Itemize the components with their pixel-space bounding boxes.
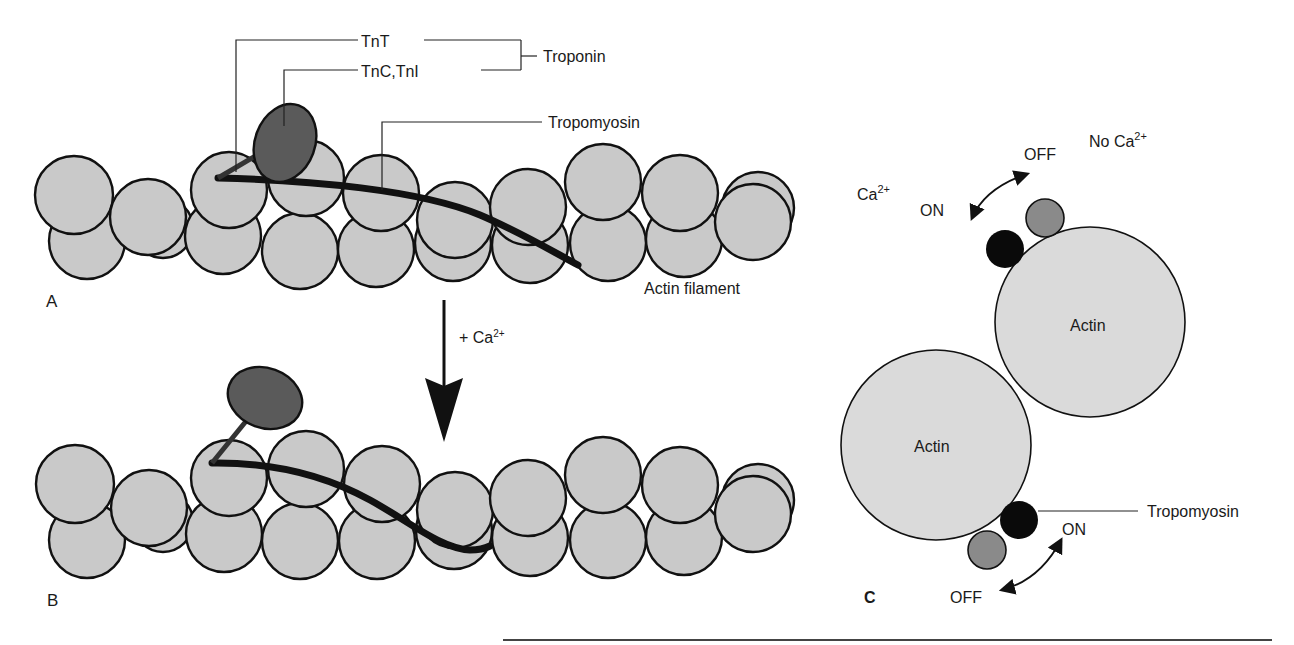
tropomyosin-on-position-upper [986, 230, 1024, 268]
panel-a-actin-filament [35, 140, 794, 289]
tropomyosin-label-c: Tropomyosin [1147, 503, 1239, 520]
panel-c-label: C [864, 589, 876, 606]
panel-c-cross-section [841, 199, 1185, 569]
on-off-switch-arrow-upper [972, 174, 1027, 218]
calcium-present-label: Ca2+ [857, 183, 890, 203]
tnc-tni-label: TnC,TnI [361, 63, 419, 80]
troponin-label: Troponin [543, 48, 606, 65]
panel-a-label: A [46, 292, 58, 311]
plus-calcium-label: + Ca2+ [459, 328, 505, 346]
tropomyosin-label-a: Tropomyosin [548, 114, 640, 131]
troponin-tropomyosin-diagram: TnT TnC,TnI Troponin Tropomyosin Actin f… [0, 0, 1294, 645]
panel-b-actin-filament [36, 431, 794, 579]
no-calcium-label: No Ca2+ [1089, 130, 1147, 150]
off-label-lower: OFF [950, 589, 982, 606]
add-calcium-arrow [425, 300, 463, 442]
actin-filament-label: Actin filament [644, 280, 741, 297]
actin-label-lower: Actin [914, 438, 950, 455]
panel-b-troponin-head [219, 357, 311, 439]
tropomyosin-on-position-lower [1000, 501, 1038, 539]
off-label-upper: OFF [1024, 146, 1056, 163]
on-label-upper: ON [920, 202, 944, 219]
on-off-switch-arrow-lower [1002, 540, 1061, 590]
tropomyosin-off-position-lower [968, 531, 1006, 569]
actin-label-upper: Actin [1070, 317, 1106, 334]
tropomyosin-off-position-upper [1026, 199, 1064, 237]
panel-b-label: B [47, 591, 58, 610]
tnt-label: TnT [361, 33, 390, 50]
on-label-lower: ON [1062, 521, 1086, 538]
